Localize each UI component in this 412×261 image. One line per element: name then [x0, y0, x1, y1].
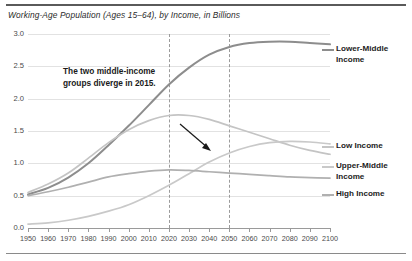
y-tick-label: 2.0 [6, 94, 24, 103]
legend-item[interactable]: Upper-MiddleIncome [336, 161, 388, 182]
legend-item[interactable]: Lower-MiddleIncome [336, 44, 388, 65]
top-divider [6, 4, 406, 6]
legend-swatch [322, 166, 334, 168]
legend-label-continued: Income [336, 55, 388, 66]
chart-figure: Working-Age Population (Ages 15–64), by … [0, 0, 412, 261]
annotation-line-1: The two middle-income [63, 66, 156, 78]
y-tick-label: 1.0 [6, 158, 24, 167]
legend-item[interactable]: High Income [336, 189, 385, 200]
y-tick-label: 3.0 [6, 29, 24, 38]
legend-label: Lower-Middle [336, 44, 388, 55]
legend-label-continued: Income [336, 172, 388, 183]
legend-swatch [322, 49, 334, 51]
bottom-divider [6, 253, 406, 254]
y-tick-label: 2.5 [6, 61, 24, 70]
annotation-line-2: groups diverge in 2015. [63, 78, 156, 90]
series-line-lower-middle-income [28, 42, 330, 195]
legend-item[interactable]: Low Income [336, 141, 383, 152]
legend-label: Low Income [336, 141, 383, 152]
plot-area: 0.00.51.01.52.02.53.0 195019601970198019… [28, 34, 330, 230]
annotation-arrow [178, 122, 224, 160]
y-tick-label: 0.0 [6, 223, 24, 232]
x-tick-mark [330, 228, 331, 232]
x-tick-label: 2100 [317, 234, 343, 243]
legend-swatch [322, 146, 334, 148]
divergence-annotation: The two middle-income groups diverge in … [63, 66, 156, 89]
y-tick-label: 0.5 [6, 191, 24, 200]
legend-label: Upper-Middle [336, 161, 388, 172]
y-tick-label: 1.5 [6, 126, 24, 135]
legend-label: High Income [336, 189, 385, 200]
chart-title: Working-Age Population (Ages 15–64), by … [8, 10, 240, 20]
legend-swatch [322, 194, 334, 196]
